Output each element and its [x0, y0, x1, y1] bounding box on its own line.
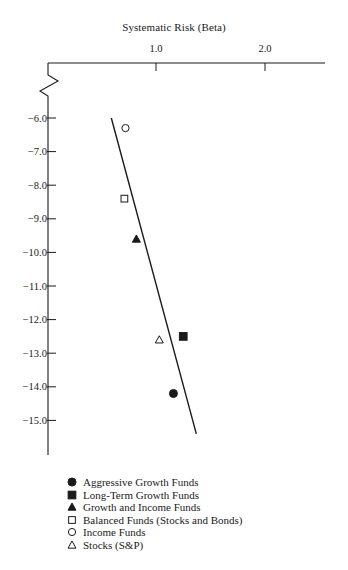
filled-triangle-icon: [67, 502, 77, 512]
y-tick-label: −6.0: [28, 113, 47, 124]
legend-item: Long-Term Growth Funds: [67, 489, 242, 502]
filled-square-glyph: [68, 491, 76, 499]
open-square-glyph: [69, 516, 76, 523]
y-tick-label: −11.0: [23, 281, 47, 292]
legend-item: Balanced Funds (Stocks and Bonds): [67, 514, 242, 527]
open-square-marker: [121, 195, 128, 202]
y-tick-label: −8.0: [28, 180, 47, 191]
open-square-icon: [67, 515, 77, 525]
y-tick-label: −7.0: [28, 146, 47, 157]
legend: Aggressive Growth FundsLong-Term Growth …: [67, 476, 242, 551]
legend-item: Aggressive Growth Funds: [67, 476, 242, 489]
filled-circle-marker: [169, 390, 177, 398]
y-tick-label: −14.0: [23, 381, 47, 392]
y-tick-label: −9.0: [28, 213, 47, 224]
legend-label: Stocks (S&P): [83, 539, 143, 551]
legend-label: Balanced Funds (Stocks and Bonds): [83, 514, 242, 526]
filled-triangle-marker: [132, 235, 140, 242]
open-triangle-glyph: [68, 541, 76, 548]
filled-triangle-glyph: [68, 503, 76, 510]
y-tick-label: −12.0: [23, 314, 47, 325]
filled-circle-glyph: [68, 478, 76, 486]
y-tick-label: −10.0: [23, 247, 47, 258]
filled-circle-icon: [67, 477, 77, 487]
filled-square-marker: [179, 333, 187, 341]
legend-label: Aggressive Growth Funds: [83, 476, 199, 488]
x-tick-label: 2.0: [258, 43, 271, 54]
regression-line: [111, 118, 196, 434]
legend-item: Stocks (S&P): [67, 539, 242, 552]
open-triangle-marker: [155, 336, 163, 343]
scatter-chart: 1.02.0−6.0−7.0−8.0−9.0−10.0−11.0−12.0−13…: [0, 0, 348, 470]
open-circle-marker: [122, 124, 129, 131]
open-triangle-icon: [67, 540, 77, 550]
fit-line: [111, 118, 196, 434]
y-tick-label: −15.0: [23, 415, 47, 426]
open-circle-glyph: [68, 529, 75, 536]
data-points: [121, 124, 187, 397]
filled-square-icon: [67, 490, 77, 500]
legend-item: Growth and Income Funds: [67, 501, 242, 514]
legend-label: Growth and Income Funds: [83, 501, 201, 513]
legend-label: Income Funds: [83, 526, 146, 538]
open-circle-icon: [67, 527, 77, 537]
legend-label: Long-Term Growth Funds: [83, 489, 199, 501]
y-tick-label: −13.0: [23, 348, 47, 359]
x-tick-label: 1.0: [149, 43, 162, 54]
legend-item: Income Funds: [67, 526, 242, 539]
